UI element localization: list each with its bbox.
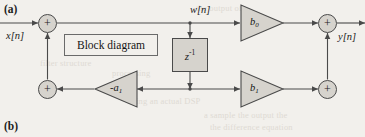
adder-plus-sign: + (44, 17, 51, 29)
gain-triangle-b1 (240, 70, 284, 108)
adder-feedforward-sum: + (318, 80, 337, 99)
gain-label-a1: -a1 (110, 82, 122, 93)
gain-label-b0: b0 (250, 16, 259, 27)
delay-block-z-inverse: z-1 (172, 38, 208, 72)
adder-feedback-sum: + (38, 80, 57, 99)
adder-input-sum: + (38, 14, 57, 33)
delay-block-label: z-1 (185, 48, 196, 62)
caption-box: Block diagram (64, 34, 158, 56)
adder-output-sum: + (318, 14, 337, 33)
adder-plus-sign: + (324, 17, 331, 29)
adder-plus-sign: + (44, 83, 51, 95)
caption-box-label: Block diagram (77, 39, 145, 51)
figure-block-diagram: the output of filter structure processin… (0, 0, 365, 137)
gain-label-b1: b1 (250, 82, 259, 93)
adder-plus-sign: + (324, 83, 331, 95)
gain-triangle-b0 (240, 4, 284, 42)
